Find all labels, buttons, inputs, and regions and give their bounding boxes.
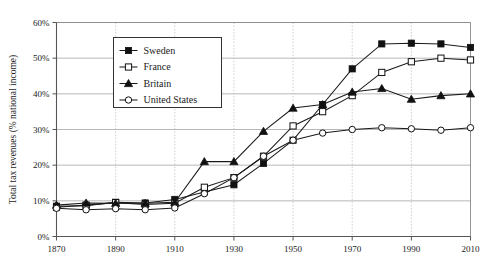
x-tick-label-2010: 2010 [462, 244, 481, 254]
series-united-states-point-1950-open-circle-marker [290, 137, 296, 143]
y-tick-label-30: 30% [33, 125, 50, 135]
legend-label: France [144, 61, 172, 72]
legend-label: Britain [144, 78, 172, 89]
series-united-states-point-1960-open-circle-marker [319, 130, 325, 136]
series-united-states-point-2000-open-circle-marker [438, 127, 444, 133]
series-france-point-1950-open-square-marker [290, 123, 296, 129]
series-sweden-point-2010-filled-square-marker [467, 44, 473, 50]
series-sweden-point-1970-filled-square-marker [349, 66, 355, 72]
series-sweden-point-2000-filled-square-marker [438, 41, 444, 47]
series-united-states-point-1920-open-circle-marker [201, 191, 207, 197]
chart-background [0, 0, 495, 271]
y-tick-label-40: 40% [33, 89, 50, 99]
series-united-states-point-1910-open-circle-marker [172, 205, 178, 211]
x-tick-label-1890: 1890 [107, 244, 126, 254]
legend-france-open-square-marker [125, 64, 131, 70]
legend-united-states-open-circle-marker [125, 97, 131, 103]
series-united-states-point-1970-open-circle-marker [349, 126, 355, 132]
y-tick-label-10: 10% [33, 196, 50, 206]
series-united-states-point-1990-open-circle-marker [408, 126, 414, 132]
legend-sweden-filled-square-marker [125, 47, 131, 53]
series-france-point-2010-open-square-marker [467, 57, 473, 63]
y-tick-label-0: 0% [38, 232, 51, 242]
series-france-point-2000-open-square-marker [438, 55, 444, 61]
series-united-states-point-1900-open-circle-marker [142, 207, 148, 213]
series-united-states-point-1870-open-circle-marker [53, 205, 59, 211]
x-tick-label-1970: 1970 [343, 244, 362, 254]
series-france-point-1960-open-square-marker [320, 109, 326, 115]
series-united-states-point-1980-open-circle-marker [379, 125, 385, 131]
y-axis-title: Total tax revenues (% national income) [8, 55, 19, 204]
series-france-point-1920-open-square-marker [201, 184, 207, 190]
series-united-states-point-2010-open-circle-marker [467, 125, 473, 131]
series-sweden-point-1980-filled-square-marker [379, 41, 385, 47]
x-tick-label-1870: 1870 [48, 244, 67, 254]
series-france-point-1980-open-square-marker [379, 69, 385, 75]
tax-revenue-line-chart: 0%10%20%30%40%50%60% 1870189019101930195… [0, 0, 495, 271]
legend-label: Sweden [144, 45, 176, 56]
x-tick-label-1990: 1990 [402, 244, 421, 254]
y-tick-label-60: 60% [33, 18, 50, 28]
series-united-states-point-1890-open-circle-marker [112, 205, 118, 211]
x-tick-label-1930: 1930 [225, 244, 244, 254]
chart-legend: SwedenFranceBritainUnited States [114, 38, 222, 108]
y-axis-title-text: Total tax revenues (% national income) [8, 55, 19, 204]
y-tick-label-50: 50% [33, 53, 50, 63]
legend-label: United States [144, 94, 198, 105]
series-united-states-point-1880-open-circle-marker [83, 207, 89, 213]
series-sweden-point-1930-filled-square-marker [231, 182, 237, 188]
series-france-point-1990-open-square-marker [408, 59, 414, 65]
chart-canvas: 0%10%20%30%40%50%60% 1870189019101930195… [0, 0, 495, 271]
series-united-states-point-1930-open-circle-marker [231, 174, 237, 180]
series-united-states-point-1940-open-circle-marker [260, 153, 266, 159]
y-tick-label-20: 20% [33, 160, 50, 170]
x-tick-label-1950: 1950 [284, 244, 303, 254]
series-sweden-point-1990-filled-square-marker [408, 40, 414, 46]
x-tick-label-1910: 1910 [166, 244, 185, 254]
series-sweden-point-1940-filled-square-marker [260, 160, 266, 166]
